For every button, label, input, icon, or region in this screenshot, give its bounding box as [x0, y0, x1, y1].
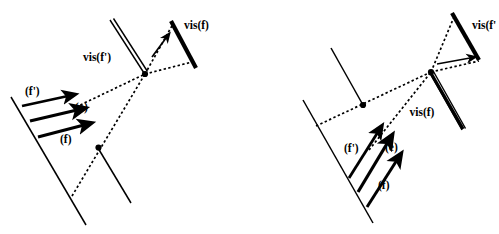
- right-label-vis-f-prime: vis(f': [472, 19, 496, 32]
- left-label-vis-f-prime: vis(f'): [83, 51, 111, 64]
- left-label-edge-e: (e): [75, 101, 88, 114]
- geometry-diagram: vis(f') vis(f) (f') (e) (f): [0, 0, 499, 234]
- right-junction-dot: [428, 69, 434, 75]
- right-label-vis-f: vis(f): [410, 106, 435, 119]
- left-lower-dot: [95, 144, 101, 150]
- figure-container: vis(f') vis(f) (f') (e) (f): [0, 0, 499, 234]
- right-mid-dot: [360, 102, 366, 108]
- left-label-face-f-prime: (f'): [25, 85, 40, 98]
- left-junction-dot: [142, 71, 148, 77]
- left-label-face-f: (f): [60, 133, 72, 146]
- right-label-face-f: (f): [378, 179, 390, 192]
- left-label-vis-f: vis(f): [184, 19, 209, 32]
- right-label-edge-e: (e): [385, 141, 398, 154]
- right-label-face-f-prime: (f'): [344, 142, 359, 155]
